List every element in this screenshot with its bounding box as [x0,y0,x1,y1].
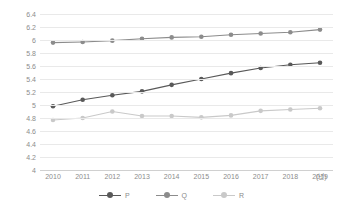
data-point-p [80,98,85,103]
x-tick-label: 2015 [194,173,210,180]
data-point-q [199,34,204,39]
gridline [40,118,333,119]
y-tick-label: 6 [32,37,36,44]
gridline [40,14,333,15]
x-tick-label: 2011 [75,173,90,180]
data-point-r [110,109,115,114]
gridline [40,131,333,132]
y-tick-label: 5.2 [26,89,36,96]
y-tick-label: 4.2 [26,154,36,161]
data-point-r [288,107,293,112]
y-tick-label: 6.4 [26,11,36,18]
data-point-r [229,113,234,118]
gridline [40,40,333,41]
legend-item-r[interactable]: R [213,191,244,199]
data-point-r [318,106,323,111]
gridline [40,79,333,80]
y-tick-label: 6.2 [26,24,36,31]
legend-marker-icon [156,191,178,199]
data-point-q [288,30,293,35]
gridline [40,66,333,67]
legend-item-p[interactable]: P [99,191,130,199]
x-tick-label: 2017 [253,173,269,180]
series-line-p [53,63,320,107]
y-tick-label: 5.8 [26,50,36,57]
data-point-q [229,33,234,38]
gridline [40,27,333,28]
x-tick-label: 2012 [105,173,121,180]
data-point-p [110,93,115,98]
legend-item-q[interactable]: Q [156,191,187,199]
x-tick-label: 2013 [134,173,150,180]
legend-label: P [125,192,130,199]
x-axis-unit-label: (년) [316,173,327,180]
gridline [40,144,333,145]
gridline [40,92,333,93]
plot-area [40,14,333,170]
y-tick-label: 4.6 [26,128,36,135]
x-axis: 2010201120122013201420152016201720182019 [40,173,333,185]
x-tick-label: 2018 [283,173,299,180]
x-tick-label: 2014 [164,173,180,180]
data-point-p [169,83,174,88]
line-chart: 6.46.265.85.65.45.254.84.64.44.24 201020… [0,0,343,207]
legend-marker-icon [213,191,235,199]
y-tick-label: 4 [32,167,36,174]
data-point-p [229,71,234,76]
y-tick-label: 5 [32,102,36,109]
legend-label: Q [182,192,187,199]
legend-label: R [239,192,244,199]
data-point-q [258,31,263,36]
y-tick-label: 5.4 [26,76,36,83]
x-tick-label: 2010 [45,173,61,180]
gridline [40,105,333,106]
y-axis: 6.46.265.85.65.45.254.84.64.44.24 [0,14,36,170]
y-tick-label: 5.6 [26,63,36,70]
data-point-q [169,35,174,40]
data-point-r [258,109,263,114]
gridline [40,53,333,54]
data-point-p [318,60,323,65]
legend-marker-icon [99,191,121,199]
y-tick-label: 4.8 [26,115,36,122]
chart-legend: PQR [0,188,343,202]
gridline [40,157,333,158]
x-axis-line [40,170,333,171]
x-tick-label: 2016 [223,173,239,180]
y-tick-label: 4.4 [26,141,36,148]
